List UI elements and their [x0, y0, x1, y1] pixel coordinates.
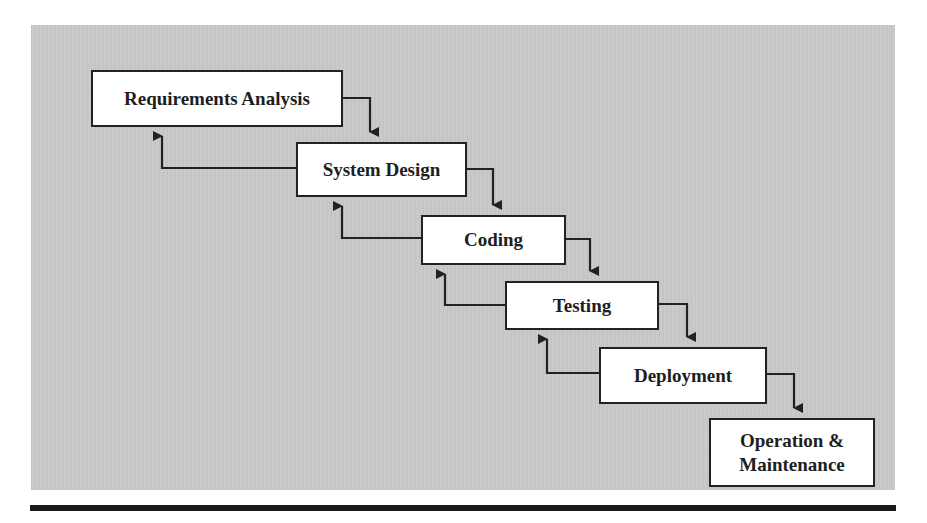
- stage-label: Deployment: [634, 364, 732, 388]
- stage-label: Coding: [464, 228, 523, 252]
- stage-requirements-analysis: Requirements Analysis: [91, 70, 343, 127]
- stage-label: Testing: [553, 294, 611, 318]
- stage-deployment: Deployment: [599, 347, 767, 404]
- stage-coding: Coding: [421, 215, 566, 265]
- page-margin-top: [0, 0, 927, 25]
- stage-system-design: System Design: [296, 142, 467, 197]
- stage-operation-maintenance: Operation & Maintenance: [709, 418, 875, 487]
- stage-testing: Testing: [505, 281, 659, 330]
- stage-label: Operation & Maintenance: [739, 429, 845, 477]
- bottom-horizontal-rule: [30, 505, 896, 511]
- stage-label: Requirements Analysis: [124, 87, 310, 111]
- stage-label: System Design: [323, 158, 441, 182]
